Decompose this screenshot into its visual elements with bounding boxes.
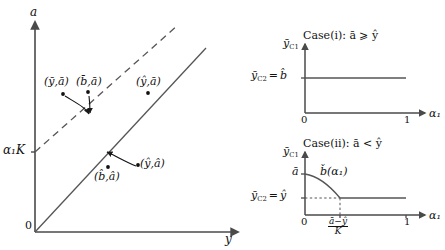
left-origin-label: 0 <box>25 220 32 231</box>
left-panel-lines <box>35 25 206 232</box>
tr-level-subscript: C2 <box>257 75 267 83</box>
left-x-axis-label: y <box>225 233 232 245</box>
pointer-yhat-ahat <box>107 152 136 166</box>
point-label-bhat-ahat: (b̂,â) <box>94 171 120 182</box>
dashed-line <box>35 25 178 152</box>
br-x-axis-label: α₁ <box>429 210 441 221</box>
br-x-tick-1: 1 <box>404 217 410 227</box>
point-label-ybar-abar: (ȳ,ā) <box>44 76 69 87</box>
tr-y-axis-subscript: C1 <box>289 43 299 51</box>
br-x-tick-0: 0 <box>301 217 307 227</box>
br-curve-label: b̌(α₁) <box>320 166 347 177</box>
pointer-ybar-abar <box>65 96 89 114</box>
br-level-label: ȳC2=ŷ <box>251 190 286 202</box>
figure-canvas <box>0 0 445 250</box>
br-breakpoint-label: ā−ŷ K <box>328 217 348 236</box>
point-label-bbar-abar: (b̄,ā) <box>76 76 102 87</box>
br-y-axis-label: ȳC1 <box>283 146 299 158</box>
figure-root: a y 0 α₁K (ȳ,ā) (b̄,ā) (ŷ,ā) (b̂,â) (ŷ,â… <box>0 0 445 250</box>
br-breakpoint-denominator: K <box>328 226 348 236</box>
tr-level-equals: = <box>269 69 278 82</box>
case-i-title: Case(i): ā ⩾ ŷ <box>303 30 378 41</box>
tr-x-tick-1: 1 <box>404 115 410 125</box>
point-marker-3 <box>146 91 150 95</box>
case-ii-title: Case(ii): ā < ŷ <box>303 138 382 149</box>
top-right-axes <box>301 44 425 113</box>
left-y-axis-label: a <box>30 6 37 18</box>
br-intercept-label: ā <box>292 166 299 177</box>
bottom-right-axes <box>301 152 425 218</box>
point-marker-2 <box>86 90 90 94</box>
point-marker-1 <box>61 92 65 96</box>
left-panel-axes <box>31 22 238 232</box>
br-y-axis-subscript: C1 <box>289 151 299 159</box>
left-panel-pointers <box>65 96 136 166</box>
tr-level-value: b̂ <box>280 69 287 82</box>
left-y-tick-label: α₁K <box>3 144 25 156</box>
br-breakpoint-numerator: ā−ŷ <box>328 217 348 226</box>
tr-y-axis-label: ȳC1 <box>283 38 299 50</box>
point-marker-4 <box>106 165 110 169</box>
br-level-equals: = <box>269 189 278 202</box>
point-label-yhat-ahat: (ŷ,â) <box>140 158 165 169</box>
tr-level-label: ȳC2=b̂ <box>251 70 287 82</box>
point-label-yhat-abar: (ŷ,ā) <box>136 76 161 87</box>
br-level-value: ŷ <box>280 189 286 202</box>
br-level-subscript: C2 <box>257 195 267 203</box>
tr-x-tick-0: 0 <box>301 115 307 125</box>
tr-x-axis-label: α₁ <box>429 108 441 119</box>
